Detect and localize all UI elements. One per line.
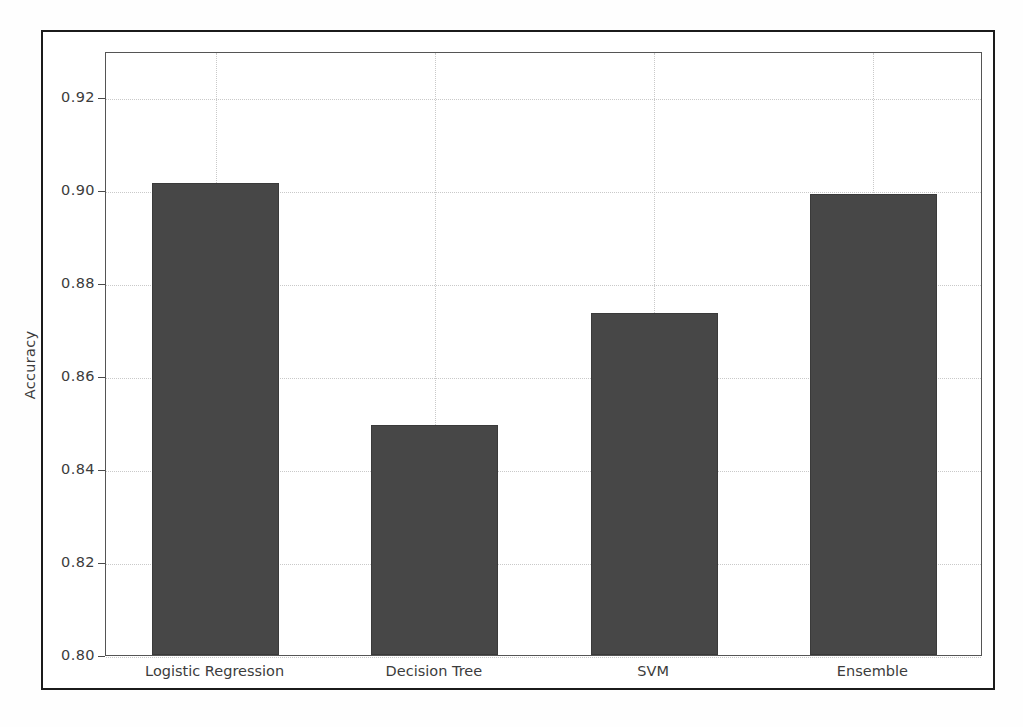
gridline-horizontal: [106, 99, 981, 100]
y-axis-tick-mark: [98, 284, 105, 285]
y-axis-tick-labels: 0.800.820.840.860.880.900.92: [0, 0, 95, 727]
y-axis-tick-mark: [98, 470, 105, 471]
y-axis-tick-label: 0.84: [61, 461, 95, 477]
bar: [152, 183, 279, 656]
figure-root: Accuracy 0.800.820.840.860.880.900.92 Lo…: [0, 0, 1023, 727]
y-axis-tick-mark: [98, 98, 105, 99]
y-axis-tick-label: 0.92: [61, 89, 95, 105]
plot-area: [105, 52, 982, 656]
y-axis-tick-label: 0.86: [61, 368, 95, 384]
y-axis-tick-label: 0.80: [61, 647, 95, 663]
x-axis-tick-label: SVM: [637, 663, 669, 679]
gridline-horizontal: [106, 657, 981, 658]
y-axis-tick-mark: [98, 191, 105, 192]
bar: [371, 425, 498, 655]
bar: [810, 194, 937, 655]
x-axis-tick-label: Logistic Regression: [145, 663, 284, 679]
bar: [591, 313, 718, 655]
y-axis-tick-label: 0.90: [61, 182, 95, 198]
x-axis-tick-label: Decision Tree: [386, 663, 483, 679]
y-axis-tick-mark: [98, 377, 105, 378]
y-axis-tick-mark: [98, 656, 105, 657]
y-axis-tick-mark: [98, 563, 105, 564]
y-axis-tick-label: 0.82: [61, 554, 95, 570]
x-axis-tick-label: Ensemble: [837, 663, 908, 679]
y-axis-tick-label: 0.88: [61, 275, 95, 291]
